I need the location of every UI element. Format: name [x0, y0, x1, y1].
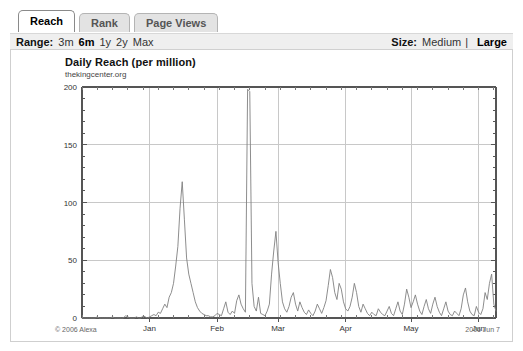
tab-rank[interactable]: Rank [79, 13, 130, 32]
svg-text:150: 150 [64, 141, 78, 150]
svg-text:Apr: Apr [339, 324, 352, 333]
svg-text:200: 200 [64, 83, 78, 92]
range-controls: Range:3m6m1y2yMax [16, 36, 154, 48]
range-option-max[interactable]: Max [133, 36, 154, 48]
range-option-3m[interactable]: 3m [58, 36, 73, 48]
range-option-6m[interactable]: 6m [79, 36, 95, 48]
svg-text:Mar: Mar [271, 324, 285, 333]
size-label: Size: [391, 36, 417, 48]
tab-reach[interactable]: Reach [18, 10, 75, 32]
chart-date: 2006 Jun 7 [465, 326, 500, 333]
svg-text:50: 50 [68, 256, 77, 265]
chart-panel: Daily Reach (per million) thekingcenter.… [10, 50, 513, 342]
range-option-2y[interactable]: 2y [116, 36, 128, 48]
chart-plot-area[interactable]: 050100150200JanFebMarAprMayJun [11, 50, 512, 340]
chart-toolbar: Range:3m6m1y2yMax Size:Medium|Large [10, 33, 513, 50]
svg-text:100: 100 [64, 199, 78, 208]
svg-text:0: 0 [73, 314, 78, 323]
size-controls: Size:Medium|Large [391, 36, 507, 48]
tab-bar: Reach Rank Page Views [0, 0, 523, 32]
tab-rank-label: Rank [91, 17, 118, 29]
svg-text:May: May [403, 324, 418, 333]
svg-text:Jan: Jan [143, 324, 156, 333]
size-separator: | [465, 36, 468, 48]
tab-page-views[interactable]: Page Views [134, 13, 218, 32]
size-option-large[interactable]: Large [477, 36, 507, 48]
tab-list: Reach Rank Page Views [18, 9, 222, 32]
alexa-reach-widget: Reach Rank Page Views Range:3m6m1y2yMax … [0, 0, 523, 351]
tab-page-views-label: Page Views [146, 17, 206, 29]
size-option-medium[interactable]: Medium [422, 36, 461, 48]
range-option-1y[interactable]: 1y [99, 36, 111, 48]
range-label: Range: [16, 36, 53, 48]
tab-reach-label: Reach [30, 15, 63, 27]
copyright-text: © 2006 Alexa [55, 326, 97, 333]
reach-line-chart: 050100150200JanFebMarAprMayJun [11, 50, 512, 340]
svg-text:Feb: Feb [210, 324, 224, 333]
